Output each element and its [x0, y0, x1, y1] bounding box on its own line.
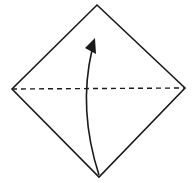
origami-diagram — [0, 0, 194, 183]
paper-diamond — [12, 5, 185, 177]
diagram-canvas — [0, 0, 194, 183]
